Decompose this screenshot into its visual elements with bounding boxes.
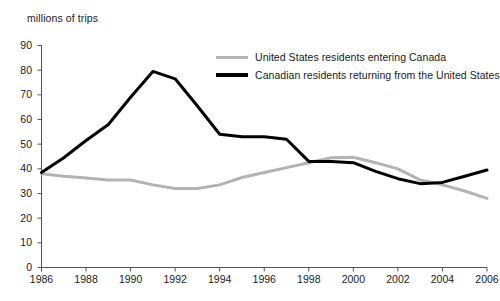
x-tick-label: 1990 [111, 274, 151, 285]
x-tick-label: 2006 [467, 274, 500, 285]
x-tick-label: 1994 [200, 274, 240, 285]
y-tick-label: 90 [6, 40, 32, 50]
x-tick-label: 2004 [422, 274, 462, 285]
x-tick-label: 1998 [289, 274, 329, 285]
x-tick-label: 1996 [244, 274, 284, 285]
legend-item-us-residents: United States residents entering Canada [216, 48, 500, 66]
line-series-us-residents [42, 157, 488, 198]
y-axis-ticks [38, 46, 42, 268]
y-tick-label: 80 [6, 65, 32, 75]
chart-container: millions of trips 9080706050403020100 19… [0, 0, 500, 301]
legend-swatch-icon-ca [216, 73, 248, 77]
x-tick-label: 2000 [333, 274, 373, 285]
x-tick-label: 2002 [378, 274, 418, 285]
chart-plot-area [0, 0, 500, 301]
legend-label-us: United States residents entering Canada [255, 51, 446, 63]
x-tick-label: 1988 [66, 274, 106, 285]
y-tick-label: 70 [6, 89, 32, 99]
line-series-canadian-residents [42, 71, 488, 183]
chart-legend: United States residents entering Canada … [216, 48, 500, 84]
legend-item-canadian-residents: Canadian residents returning from the Un… [216, 66, 500, 84]
y-tick-label: 60 [6, 114, 32, 124]
y-tick-label: 50 [6, 139, 32, 149]
y-tick-label: 20 [6, 213, 32, 223]
y-tick-label: 40 [6, 163, 32, 173]
y-tick-label: 0 [6, 262, 32, 272]
y-tick-label: 10 [6, 237, 32, 247]
x-tick-label: 1992 [155, 274, 195, 285]
legend-swatch-icon-us [216, 56, 248, 59]
y-tick-label: 30 [6, 188, 32, 198]
legend-label-ca: Canadian residents returning from the Un… [255, 69, 500, 81]
x-axis-ticks [42, 268, 488, 272]
x-tick-label: 1986 [22, 274, 62, 285]
